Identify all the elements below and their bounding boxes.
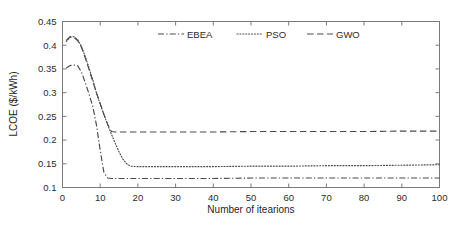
x-tick-label: 70 (321, 192, 332, 203)
chart-legend: EBEAPSOGWO (158, 29, 360, 40)
x-tick-label: 30 (170, 192, 181, 203)
x-axis-title: Number of itearions (207, 204, 294, 215)
x-tick-label: 60 (283, 192, 294, 203)
lcoe-convergence-chart: 0.10.150.20.250.30.350.40.45 01020304050… (0, 0, 459, 229)
plot-frame (63, 22, 440, 188)
x-tick-label: 10 (95, 192, 106, 203)
series-gwo (66, 37, 439, 132)
x-tick-label: 100 (432, 192, 448, 203)
y-tick-label: 0.15 (38, 158, 57, 169)
y-axis-title: LCOE ($/kWh) (8, 71, 19, 136)
x-tick-label: 50 (246, 192, 257, 203)
y-tick-label: 0.2 (43, 134, 56, 145)
x-tick-label: 90 (397, 192, 408, 203)
legend-label-ebea: EBEA (187, 29, 213, 40)
y-tick-label: 0.35 (38, 63, 57, 74)
y-tick-label: 0.1 (43, 182, 56, 193)
y-tick-label: 0.3 (43, 87, 56, 98)
legend-label-gwo: GWO (336, 29, 360, 40)
legend-label-pso: PSO (266, 29, 286, 40)
chart-figure: 0.10.150.20.250.30.350.40.45 01020304050… (0, 0, 459, 229)
series-ebea (66, 65, 439, 178)
y-tick-label: 0.4 (43, 40, 56, 51)
x-axis: 0102030405060708090100 (60, 22, 448, 203)
x-tick-label: 20 (133, 192, 144, 203)
series-pso (66, 37, 439, 167)
y-tick-label: 0.25 (38, 111, 57, 122)
x-tick-label: 40 (208, 192, 219, 203)
y-tick-label: 0.45 (38, 16, 57, 27)
series-layer (66, 37, 439, 179)
x-tick-label: 80 (359, 192, 370, 203)
x-tick-label: 0 (60, 192, 65, 203)
